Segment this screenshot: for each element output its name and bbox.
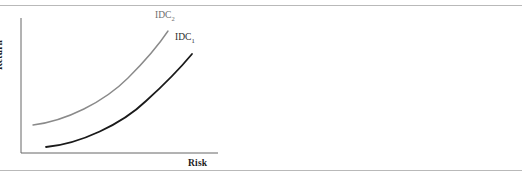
curve-label-idc2-base: IDC <box>155 10 171 20</box>
x-axis-label: Risk <box>188 158 207 168</box>
curve-label-idc1: IDC1 <box>175 32 195 42</box>
figure-block: Return Risk IDC2 IDC1 <box>0 0 522 178</box>
curve-idc1 <box>46 54 192 147</box>
curve-idc2 <box>33 31 168 125</box>
curve-label-idc1-base: IDC <box>175 32 191 42</box>
indifference-curves-chart <box>0 6 300 169</box>
curve-label-idc1-subscript: 1 <box>191 37 194 44</box>
bottom-divider-rule <box>0 170 522 171</box>
curve-label-idc2: IDC2 <box>155 10 175 20</box>
curve-label-idc2-subscript: 2 <box>171 15 174 22</box>
plot-area: Return Risk IDC2 IDC1 <box>0 6 300 169</box>
y-axis-label: Return <box>0 40 4 70</box>
